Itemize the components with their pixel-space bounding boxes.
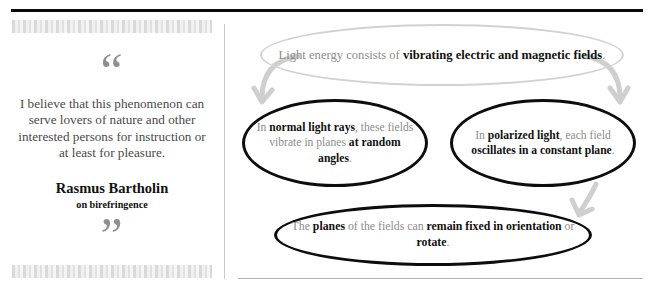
decorative-stripe-bar-top [12,20,212,33]
top-rule [11,9,643,12]
diagram-node-root-label: Light energy consists of vibrating elect… [273,47,612,63]
vertical-divider [224,24,225,279]
arrow-polarized-light-to-planes [572,184,596,215]
close-quote-mark: ” [12,210,212,260]
decorative-stripe-bar-bottom [12,265,212,278]
pull-quote-panel: “ I believe that this phenomenon can ser… [12,20,212,278]
open-quote-mark: “ [12,46,212,96]
diagram-node-normal-light: In normal light rays, these fields vibra… [242,99,428,187]
diagram-node-polarized-light-label: In polarized light, each field oscillate… [453,128,633,158]
diagram-node-polarized-light: In polarized light, each field oscillate… [450,99,636,187]
diagram-node-planes: The planes of the fields can remain fixe… [274,204,592,266]
page-root: “ I believe that this phenomenon can ser… [0,0,654,294]
diagram-node-root: Light energy consists of vibrating elect… [260,24,624,86]
concept-diagram: Light energy consists of vibrating elect… [232,16,650,274]
diagram-node-planes-label: The planes of the fields can remain fixe… [277,219,589,250]
diagram-node-normal-light-label: In normal light rays, these fields vibra… [245,120,425,166]
quote-text: I believe that this phenomenon can serve… [14,96,210,162]
bottom-rule [238,278,643,279]
quote-author: Rasmus Bartholin [14,180,210,197]
